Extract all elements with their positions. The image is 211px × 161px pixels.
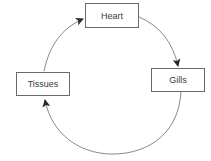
arrow-tissues-to-heart [44,19,83,71]
node-heart-label: Heart [101,11,123,21]
node-tissues-label: Tissues [28,79,59,89]
node-gills-label: Gills [169,75,187,85]
node-tissues: Tissues [16,72,70,96]
arrow-heart-to-gills [139,17,178,66]
node-gills: Gills [151,68,205,92]
circulation-cycle-diagram: Heart Gills Tissues [0,0,211,161]
node-heart: Heart [85,3,139,28]
arrow-gills-to-tissues [45,92,181,154]
